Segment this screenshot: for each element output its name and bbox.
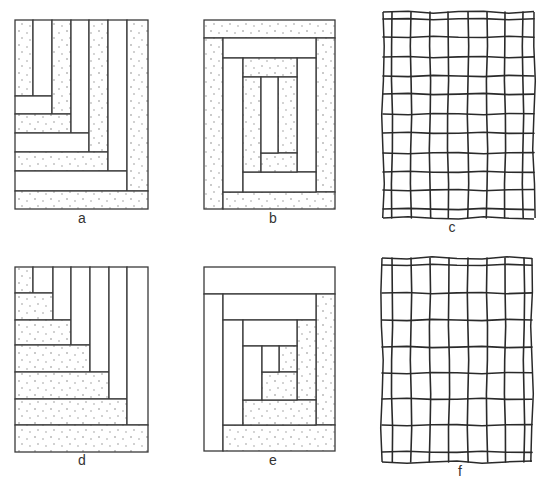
panel-d-log-cabin-staircase: [15, 267, 148, 452]
panel-label-f: f: [458, 463, 462, 479]
panel-c-grid: [382, 11, 536, 219]
grid-vertical-line: [523, 258, 524, 462]
grid-horizontal-line: [383, 208, 534, 209]
diagram-canvas: a b c d e f: [0, 0, 552, 486]
shaded-strip: [316, 38, 335, 192]
shaded-strip: [204, 38, 223, 209]
grid-horizontal-line: [382, 451, 532, 452]
grid-horizontal-line: [383, 19, 534, 20]
grid-horizontal-line: [382, 293, 532, 294]
shaded-strip: [262, 372, 297, 400]
plain-strip: [71, 20, 89, 133]
grid-horizontal-line: [382, 398, 532, 399]
plain-strip: [261, 77, 278, 153]
plain-strip: [127, 267, 148, 425]
plain-strip: [223, 38, 316, 58]
plain-strip: [262, 346, 279, 372]
plain-strip: [15, 133, 89, 152]
grid-border: [383, 217, 534, 219]
plain-strip: [15, 96, 52, 114]
plain-strip: [108, 20, 127, 171]
shaded-strip: [261, 153, 297, 172]
grid-border: [531, 258, 534, 462]
grid-vertical-line: [429, 12, 430, 218]
plain-strip: [243, 346, 262, 400]
grid-horizontal-line: [383, 132, 534, 133]
grid-border: [533, 12, 536, 218]
grid-vertical-line: [504, 258, 505, 462]
shaded-strip: [89, 20, 108, 152]
grid-horizontal-line: [383, 114, 534, 115]
grid-vertical-line: [486, 258, 487, 462]
grid-vertical-line: [410, 258, 411, 462]
shaded-strip: [15, 399, 127, 425]
shaded-strip: [15, 152, 108, 171]
panel-label-a: a: [78, 210, 86, 226]
shaded-strip: [15, 372, 109, 399]
shaded-strip: [243, 400, 316, 425]
plain-strip: [33, 20, 52, 96]
grid-border: [382, 461, 532, 463]
shaded-strip: [223, 192, 335, 209]
grid-vertical-line: [467, 12, 468, 218]
quilt-block-diagram-figure: a b c d e f: [0, 0, 552, 486]
panel-label-c: c: [449, 219, 456, 235]
grid-vertical-line: [392, 258, 393, 462]
plain-strip: [223, 294, 316, 320]
shaded-strip: [15, 345, 90, 372]
panel-f-grid: [381, 257, 534, 464]
shaded-strip: [15, 425, 148, 452]
plain-strip: [15, 171, 127, 191]
panel-label-b: b: [269, 210, 277, 226]
grid-border: [381, 258, 384, 462]
shaded-strip: [52, 20, 71, 114]
shaded-strip: [204, 20, 335, 38]
plain-strip: [223, 58, 243, 192]
shaded-strip: [316, 294, 335, 425]
shaded-strip: [243, 77, 261, 172]
panel-label-d: d: [78, 452, 86, 468]
shaded-strip: [15, 191, 148, 209]
plain-strip: [223, 320, 243, 425]
shaded-strip: [15, 320, 71, 345]
plain-strip: [243, 172, 316, 192]
panel-b-log-cabin-concentric: [204, 20, 335, 209]
grid-horizontal-line: [383, 171, 534, 172]
plain-strip: [71, 267, 90, 345]
shaded-strip: [297, 320, 316, 400]
grid-horizontal-line: [383, 36, 534, 37]
grid-horizontal-line: [382, 373, 532, 374]
grid-vertical-line: [448, 12, 449, 218]
shaded-strip: [127, 20, 148, 191]
shaded-strip: [243, 58, 297, 77]
plain-strip: [243, 320, 297, 346]
grid-horizontal-line: [382, 264, 532, 265]
grid-border: [382, 12, 385, 218]
grid-horizontal-line: [382, 319, 532, 320]
shaded-strip: [279, 346, 297, 372]
grid-vertical-line: [522, 12, 523, 218]
grid-horizontal-line: [383, 190, 534, 191]
grid-horizontal-line: [383, 153, 534, 154]
grid-vertical-line: [467, 258, 468, 462]
plain-strip: [53, 267, 71, 320]
plain-strip: [90, 267, 109, 372]
plain-strip: [204, 294, 223, 451]
plain-strip: [33, 267, 53, 293]
grid-horizontal-line: [382, 346, 532, 347]
grid-horizontal-line: [383, 93, 534, 94]
panel-label-e: e: [269, 452, 277, 468]
plain-strip: [204, 267, 335, 294]
panel-a-log-cabin-corner: [15, 20, 148, 209]
grid-vertical-line: [504, 12, 505, 218]
shaded-strip: [278, 77, 297, 153]
shaded-strip: [223, 425, 335, 451]
shaded-strip: [15, 114, 71, 133]
shaded-strip: [15, 293, 53, 320]
panel-e-log-cabin-concentric-split: [204, 267, 335, 451]
grid-border: [382, 257, 532, 259]
grid-vertical-line: [429, 258, 430, 462]
grid-horizontal-line: [383, 75, 534, 76]
grid-horizontal-line: [383, 57, 534, 58]
plain-strip: [109, 267, 127, 399]
